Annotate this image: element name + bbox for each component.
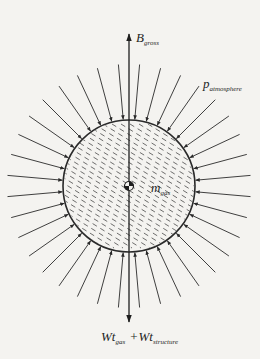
pressure-arrow — [176, 100, 215, 139]
pressure-arrow — [146, 251, 160, 304]
pressure-arrow — [43, 100, 82, 139]
pressure-arrow — [118, 253, 123, 308]
pressure-arrow — [196, 192, 251, 197]
center-of-mass-icon — [125, 182, 134, 191]
pressure-arrow — [8, 175, 63, 180]
pressure-arrow — [97, 251, 111, 304]
pressure-arrow — [8, 192, 63, 197]
pressure-arrow — [176, 233, 215, 272]
pressure-arrow — [118, 65, 123, 120]
diagram-canvas: Bgross patmosphere mgas Wtgas +Wtstructu… — [0, 0, 260, 359]
pressure-arrow — [11, 154, 64, 168]
pressure-arrow — [135, 65, 140, 120]
buoyancy-label: Bgross — [136, 28, 159, 47]
pressure-arrow — [43, 233, 82, 272]
weight-label: Wtgas +Wtstructure — [101, 327, 178, 346]
pressure-arrow — [135, 253, 140, 308]
pressure-arrow — [194, 154, 247, 168]
pressure-arrow — [146, 68, 160, 121]
pressure-arrow — [196, 175, 251, 180]
pressure-arrow — [97, 68, 111, 121]
force-diagram — [0, 0, 260, 359]
atmospheric-pressure-label: patmosphere — [203, 74, 242, 93]
pressure-arrow — [194, 203, 247, 217]
pressure-arrow — [11, 203, 64, 217]
gas-mass-label: mgas — [151, 178, 170, 197]
